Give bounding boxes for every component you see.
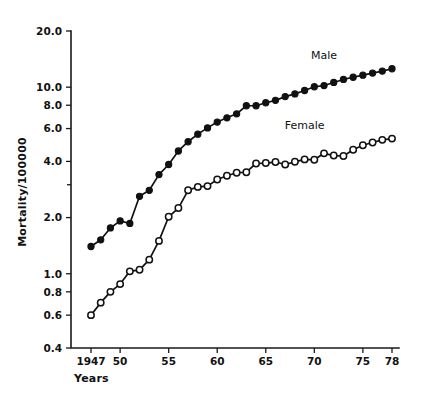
data-point-marker [233,170,239,176]
series-annotations: Male Female [285,49,338,132]
data-point-marker [234,111,240,117]
data-point-marker [195,184,201,190]
data-point-marker [214,119,220,125]
data-point-marker [136,193,142,199]
female-series-markers [88,135,395,318]
y-tick-label: 2.0 [43,211,62,223]
data-point-marker [292,91,298,97]
data-point-marker [156,238,162,244]
y-tick-label: 8.0 [43,99,62,111]
data-point-marker [107,225,113,231]
data-point-marker [117,281,123,287]
y-tick-label: 0.6 [43,309,62,321]
y-axis-title: Mortality/100000 [16,137,29,247]
data-point-marker [369,139,375,145]
data-point-marker [263,100,269,106]
data-point-marker [321,82,327,88]
x-tick-label: 70 [307,355,322,367]
data-point-marker [389,66,395,72]
data-point-marker [107,289,113,295]
data-point-marker [302,87,308,93]
x-tick-label: 75 [356,355,371,367]
data-point-marker [389,135,395,141]
data-point-marker [340,76,346,82]
data-point-marker [195,131,201,137]
data-point-marker [224,173,230,179]
data-point-marker [253,103,259,109]
data-point-marker [253,160,259,166]
chart-canvas: 20.010.08.06.04.02.01.00.80.60.4 1947505… [0,0,422,397]
female-series-line [91,139,392,316]
data-point-marker [175,205,181,211]
mortality-line-chart: 20.010.08.06.04.02.01.00.80.60.4 1947505… [0,0,422,397]
data-point-marker [165,214,171,220]
data-point-marker [136,267,142,273]
y-tick-label: 6.0 [43,122,62,134]
x-axis-title: Years [73,372,109,385]
data-point-marker [127,220,133,226]
x-tick-label: 1947 [76,355,105,367]
x-tick-label: 60 [210,355,225,367]
data-point-marker [185,139,191,145]
data-point-marker [127,268,133,274]
data-point-marker [350,74,356,80]
data-point-marker [88,312,94,318]
data-point-marker [340,153,346,159]
series-group [88,66,395,319]
y-tick-label: 20.0 [36,25,62,37]
data-point-marker [146,187,152,193]
x-tick-label: 50 [113,355,128,367]
data-point-marker [369,70,375,76]
data-point-marker [166,161,172,167]
x-tick-label: 78 [385,355,400,367]
data-point-marker [292,159,298,165]
x-axis-tick-labels: 194750556065707578 [76,355,399,367]
data-point-marker [117,218,123,224]
data-point-marker [204,183,210,189]
data-point-marker [272,97,278,103]
female-series-label: Female [285,119,325,132]
male-series-markers [88,66,395,250]
y-tick-label: 0.8 [43,286,62,298]
data-point-marker [204,125,210,131]
data-point-marker [243,103,249,109]
x-tick-label: 65 [258,355,273,367]
data-point-marker [88,243,94,249]
data-point-marker [360,72,366,78]
data-point-marker [301,156,307,162]
x-tick-label: 55 [161,355,176,367]
data-point-marker [331,79,337,85]
data-point-marker [175,148,181,154]
data-point-marker [282,161,288,167]
data-point-marker [98,237,104,243]
male-series-label: Male [311,49,337,62]
data-point-marker [360,142,366,148]
y-tick-label: 0.4 [43,342,62,354]
data-point-marker [311,157,317,163]
data-point-marker [272,159,278,165]
data-point-marker [214,176,220,182]
data-point-marker [282,94,288,100]
y-tick-label: 10.0 [36,81,62,93]
data-point-marker [98,299,104,305]
y-tick-label: 4.0 [43,155,62,167]
data-point-marker [350,147,356,153]
data-point-marker [263,160,269,166]
data-point-marker [185,187,191,193]
data-point-marker [379,137,385,143]
data-point-marker [224,115,230,121]
data-point-marker [243,169,249,175]
y-tick-label: 1.0 [43,268,62,280]
y-axis-tick-labels: 20.010.08.06.04.02.01.00.80.60.4 [36,25,62,354]
data-point-marker [379,68,385,74]
data-point-marker [321,150,327,156]
data-point-marker [331,152,337,158]
data-point-marker [311,84,317,90]
data-point-marker [156,171,162,177]
data-point-marker [146,256,152,262]
